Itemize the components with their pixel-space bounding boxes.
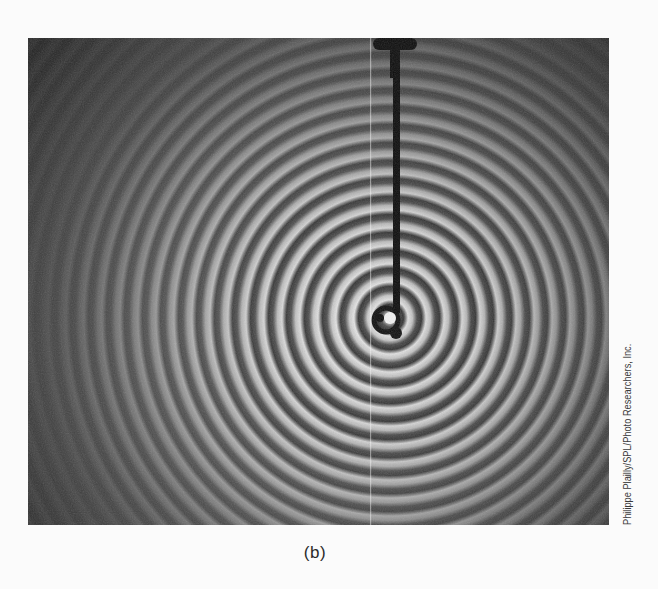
figure: (b) Philippe Plailly/SPL/Photo Researche…	[0, 0, 658, 589]
ripple-image	[28, 38, 609, 525]
ripple-photograph	[28, 38, 609, 525]
figure-caption-label: (b)	[0, 543, 630, 563]
photo-credit: Philippe Plailly/SPL/Photo Researchers, …	[621, 344, 633, 525]
